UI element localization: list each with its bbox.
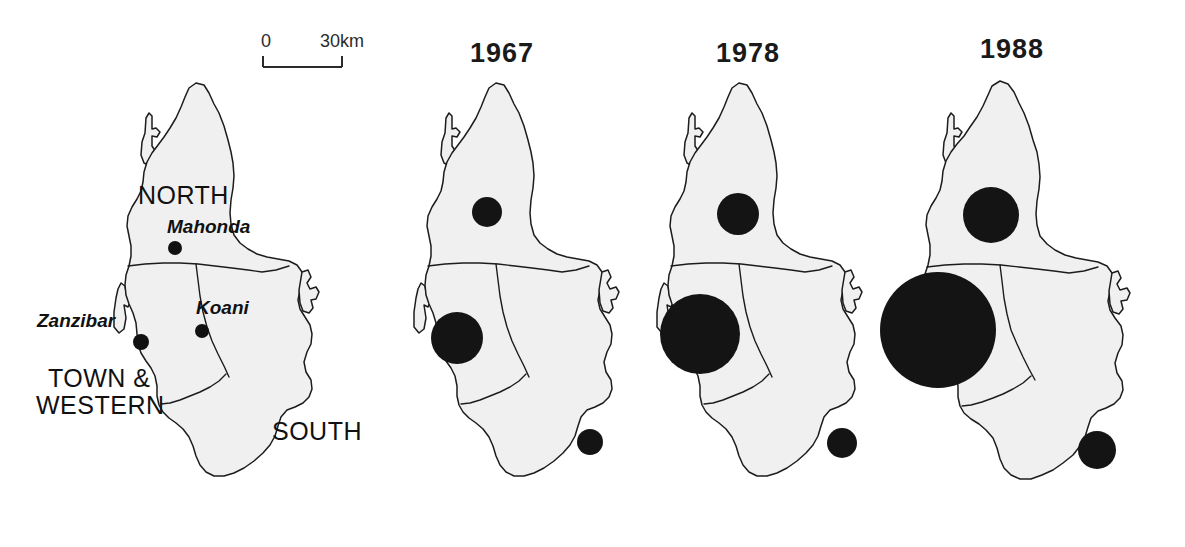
coast-inlet-east [1109, 271, 1130, 314]
coast-inlet-east [599, 270, 619, 313]
proportional-circle-north [963, 187, 1019, 243]
zanzibar-island-outline [425, 83, 612, 476]
proportional-circle-south [1078, 431, 1116, 469]
zanzibar-island-outline [668, 83, 855, 476]
proportional-circle-south [577, 429, 603, 455]
town-dot-mahonda [168, 241, 182, 255]
town-label-koani: Koani [196, 297, 249, 319]
map-1988: 1988 [890, 0, 1185, 547]
year-label-1967: 1967 [470, 38, 534, 69]
town-label-mahonda: Mahonda [167, 216, 250, 238]
map-1988-svg [890, 0, 1185, 547]
year-label-1988: 1988 [980, 34, 1044, 65]
proportional-circle-south [827, 428, 857, 458]
town-label-zanzibar: Zanzibar [37, 310, 115, 332]
region-label-north: NORTH [138, 181, 229, 210]
region-label-town-western-line2: WESTERN [36, 391, 165, 420]
map-1978-svg [638, 0, 908, 547]
proportional-circle-town-western [431, 312, 483, 364]
region-label-town-western-line1: TOWN & [48, 364, 151, 393]
town-dot-koani [195, 324, 209, 338]
reference-map-svg [0, 0, 400, 547]
map-1967: 1967 [395, 0, 665, 547]
town-dot-zanzibar [133, 334, 149, 350]
region-label-south: SOUTH [272, 417, 362, 446]
year-label-1978: 1978 [716, 38, 780, 69]
figure-root: 0 30km NORTH Mahonda Zanzib [0, 0, 1185, 547]
proportional-circle-north [717, 193, 759, 235]
proportional-circle-town-western [660, 294, 740, 374]
coast-inlet-east [842, 270, 862, 313]
proportional-circle-north [472, 197, 502, 227]
reference-map: NORTH Mahonda Zanzibar Koani TOWN & WEST… [0, 0, 400, 547]
proportional-circle-town-western [880, 272, 996, 388]
map-1967-svg [395, 0, 665, 547]
map-1978: 1978 [638, 0, 908, 547]
coast-inlet-east [299, 270, 319, 313]
